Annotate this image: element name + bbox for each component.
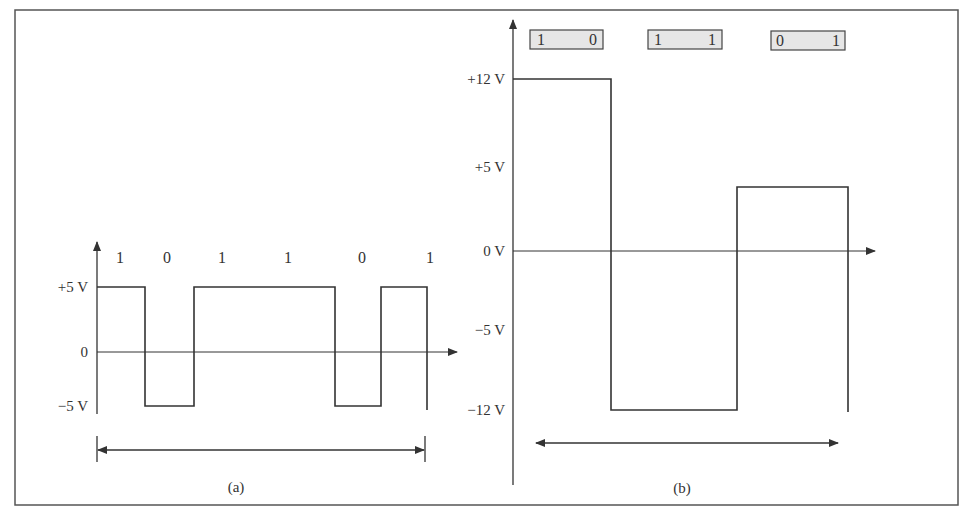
- b-bit-first: 1: [537, 31, 545, 48]
- a-label-minus5v: −5 V: [58, 398, 88, 414]
- b-bit-second: 1: [708, 31, 716, 48]
- a-bit-label: 0: [358, 249, 366, 266]
- b-caption: (b): [673, 480, 691, 497]
- a-bit-label: 1: [116, 249, 124, 266]
- b-bit-second: 0: [589, 31, 597, 48]
- b-bit-first: 0: [776, 32, 784, 49]
- a-caption: (a): [228, 479, 245, 496]
- panel-b: +12 V +5 V 0 V −5 V −12 V 1 0 1 1 0 1 (b…: [467, 20, 875, 497]
- b-label-minus12v: −12 V: [467, 402, 505, 418]
- panel-a: +5 V 0 −5 V 1 0 1 1 0 1 (a): [58, 242, 457, 496]
- b-bit-first: 1: [654, 31, 662, 48]
- figure-canvas: +5 V 0 −5 V 1 0 1 1 0 1 (a) +12 V +5 V 0…: [0, 0, 965, 512]
- a-bit-label: 1: [284, 249, 292, 266]
- b-label-plus5v: +5 V: [475, 159, 505, 175]
- a-bit-label: 0: [163, 249, 171, 266]
- b-label-plus12v: +12 V: [467, 71, 505, 87]
- a-label-plus5v: +5 V: [58, 279, 88, 295]
- b-label-zero: 0 V: [483, 243, 505, 259]
- b-label-minus5v: −5 V: [475, 322, 505, 338]
- b-bit-pair-box: 0 1: [771, 31, 845, 50]
- a-bit-label: 1: [218, 249, 226, 266]
- b-bit-second: 1: [832, 32, 840, 49]
- b-signal-waveform: [513, 79, 848, 412]
- b-bit-pair-box: 1 1: [648, 30, 722, 49]
- a-bit-label: 1: [426, 249, 434, 266]
- a-label-zero: 0: [81, 344, 89, 360]
- a-signal-waveform: [97, 287, 427, 410]
- b-bit-pair-box: 1 0: [530, 30, 603, 49]
